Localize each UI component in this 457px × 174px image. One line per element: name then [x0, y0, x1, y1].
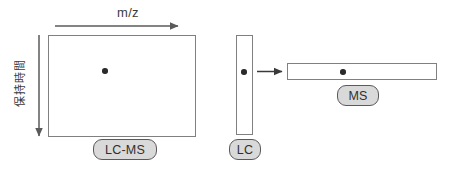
- lc-data-point-icon: [241, 69, 247, 75]
- lc-badge: LC: [229, 139, 261, 160]
- x-axis-label: m/z: [98, 5, 158, 20]
- lc-ms-diagram: m/z 保持時間 LC-MS LC MS: [0, 0, 457, 174]
- lc-separation-bar: [236, 35, 253, 135]
- lcms-badge: LC-MS: [93, 139, 157, 160]
- ms-spectrum-bar: [287, 63, 437, 80]
- lcms-data-point-icon: [102, 68, 108, 74]
- y-axis-label: 保持時間: [11, 48, 27, 118]
- lcms-plot-area: [48, 35, 196, 137]
- ms-data-point-icon: [340, 69, 346, 75]
- ms-badge: MS: [337, 85, 379, 106]
